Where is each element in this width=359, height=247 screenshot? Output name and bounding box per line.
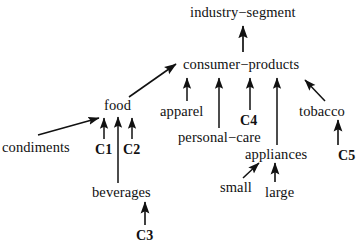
diagram-edges-layer [0,0,359,247]
node-c2: C2 [123,142,141,157]
node-condiments: condiments [2,140,70,155]
edge-food-to-consumer-products [129,64,176,97]
node-industry-segment: industry−segment [190,5,296,20]
node-beverages: beverages [92,185,151,200]
node-tobacco: tobacco [299,104,345,119]
node-c3: C3 [136,228,154,243]
node-c4: C4 [240,113,258,128]
node-apparel: apparel [160,104,203,119]
edge-small-to-appliances [243,163,259,178]
node-consumer-products: consumer−products [183,57,299,72]
node-large: large [265,185,294,200]
diagram-canvas: industry−segment consumer−products food … [0,0,359,247]
node-personal-care: personal−care [178,130,261,145]
node-c1: C1 [95,142,113,157]
node-food: food [104,98,131,113]
edge-condiments-to-food [38,118,99,135]
edge-tobacco-to-consumer-products [305,80,325,101]
node-c5: C5 [338,148,356,163]
node-appliances: appliances [245,147,307,162]
node-small: small [220,180,252,195]
